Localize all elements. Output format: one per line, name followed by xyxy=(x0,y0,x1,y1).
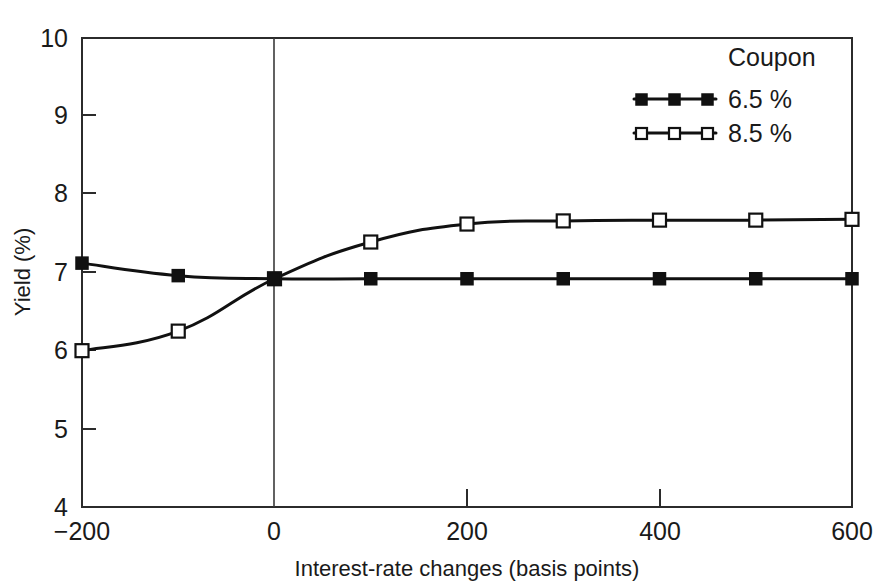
legend-entry-8-5[interactable]: 8.5 % xyxy=(634,119,792,147)
data-point-marker xyxy=(846,213,859,226)
data-point-marker xyxy=(364,236,377,249)
y-tick-label-6: 6 xyxy=(54,336,68,364)
data-point-marker xyxy=(172,325,185,338)
legend: Coupon 6.5 % 8.5 % xyxy=(634,43,816,147)
legend-marker-filled-square-3 xyxy=(702,94,713,105)
x-axis-title: Interest-rate changes (basis points) xyxy=(295,556,640,581)
data-point-marker xyxy=(557,214,570,227)
data-point-marker xyxy=(172,270,184,282)
data-point-marker xyxy=(269,273,281,285)
data-point-marker xyxy=(461,218,474,231)
x-axis-ticks xyxy=(467,489,660,507)
legend-label-8-5: 8.5 % xyxy=(728,119,792,147)
data-point-marker xyxy=(365,273,377,285)
data-point-marker xyxy=(461,273,473,285)
line-chart: 10 9 8 7 6 5 4 −200 0 200 400 600 Intere… xyxy=(0,0,881,583)
data-point-marker xyxy=(76,344,89,357)
data-point-marker xyxy=(653,214,666,227)
y-axis-tick-labels: 10 9 8 7 6 5 4 xyxy=(40,24,68,521)
x-tick-label-400: 400 xyxy=(639,517,681,545)
y-axis-title: Yield (%) xyxy=(10,228,35,316)
data-point-marker xyxy=(749,214,762,227)
x-tick-label-0: 0 xyxy=(267,517,281,545)
data-point-marker xyxy=(76,257,88,269)
y-axis-ticks xyxy=(82,115,96,429)
y-tick-label-5: 5 xyxy=(54,415,68,443)
y-tick-label-9: 9 xyxy=(54,101,68,129)
legend-marker-filled-square-1 xyxy=(636,94,647,105)
x-tick-label-minus200: −200 xyxy=(54,517,110,545)
legend-marker-open-square-3 xyxy=(702,128,713,139)
x-tick-label-600: 600 xyxy=(831,517,873,545)
legend-entry-6-5[interactable]: 6.5 % xyxy=(634,85,792,113)
series-markers-6-5 xyxy=(76,257,858,285)
data-point-marker xyxy=(846,273,858,285)
x-axis-tick-labels: −200 0 200 400 600 xyxy=(54,517,873,545)
legend-label-6-5: 6.5 % xyxy=(728,85,792,113)
data-point-marker xyxy=(750,273,762,285)
y-tick-label-8: 8 xyxy=(54,179,68,207)
data-point-marker xyxy=(654,273,666,285)
legend-marker-open-square-2 xyxy=(669,128,680,139)
y-tick-label-10: 10 xyxy=(40,24,68,52)
legend-marker-filled-square-2 xyxy=(669,94,680,105)
data-point-marker xyxy=(557,273,569,285)
chart-figure: 10 9 8 7 6 5 4 −200 0 200 400 600 Intere… xyxy=(0,0,881,583)
legend-marker-open-square-1 xyxy=(636,128,647,139)
x-tick-label-200: 200 xyxy=(446,517,488,545)
y-tick-label-7: 7 xyxy=(54,258,68,286)
legend-title: Coupon xyxy=(728,43,816,71)
